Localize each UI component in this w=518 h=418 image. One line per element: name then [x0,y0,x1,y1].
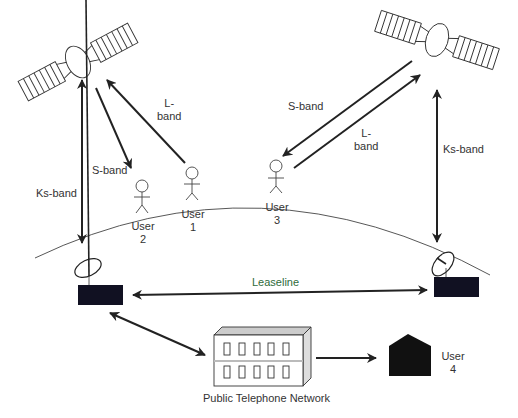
leaseline-label: Leaseline [252,276,299,289]
l-band-left-label: L-band [157,97,181,123]
s-band-left-label: S-band [92,164,127,177]
user-1-figure-icon [184,167,200,200]
earth-horizon [35,208,490,275]
gateway-right-icon [428,248,479,297]
satellite-right-icon [375,10,500,69]
leaseline-arrow [133,290,427,295]
l-band-right-label: L-band [354,127,378,153]
pstn-label: Public Telephone Network [203,392,330,405]
l-band-right-arrow [294,75,420,168]
ks-band-left-label: Ks-band [36,187,77,200]
pstn-building-icon [214,327,311,386]
user-2-label: User2 [130,220,156,246]
s-band-right-label: S-band [288,100,323,113]
user-1-label: User1 [180,208,206,234]
user-3-figure-icon [268,160,284,193]
user-4-house-icon [389,334,431,376]
user-2-figure-icon [134,180,150,213]
satellite-left-icon [18,23,138,101]
gateway-pstn-arrow [110,313,205,355]
ks-band-right-label: Ks-band [443,143,484,156]
satellite-network-diagram: L-band S-band Ks-band S-band L-band Ks-b… [0,0,518,418]
user-4-label: User4 [440,350,466,376]
user-3-label: User3 [264,201,290,227]
